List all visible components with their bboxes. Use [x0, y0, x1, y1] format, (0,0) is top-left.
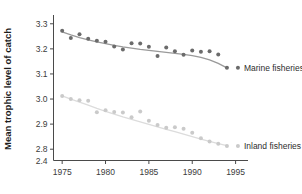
legend-swatch — [236, 144, 240, 148]
data-point — [138, 110, 142, 114]
data-point — [86, 37, 90, 41]
x-tick-label-1995: 1995 — [226, 167, 245, 177]
data-point — [130, 115, 134, 119]
data-point — [225, 66, 229, 70]
data-point — [156, 123, 160, 127]
data-point — [121, 48, 125, 52]
data-point — [95, 110, 99, 114]
trendline — [62, 32, 227, 68]
data-point — [216, 142, 220, 146]
x-tick-label-1985: 1985 — [139, 167, 158, 177]
data-point — [78, 32, 82, 36]
data-point — [190, 131, 194, 135]
legend-swatch — [236, 66, 240, 70]
x-tick-label-1990: 1990 — [183, 167, 202, 177]
y-tick-label-3.3: 3.3 — [36, 19, 48, 29]
data-point — [164, 126, 168, 130]
y-tick-label-2.8: 2.8 — [36, 144, 48, 154]
y-origin-label: 2.4 — [36, 156, 48, 166]
y-tick-label-3.2: 3.2 — [36, 44, 48, 54]
data-point — [60, 29, 64, 33]
data-point — [69, 97, 73, 101]
data-point — [78, 98, 82, 102]
data-point — [225, 144, 229, 148]
y-tick-label-3.1: 3.1 — [36, 69, 48, 79]
data-point — [112, 45, 116, 49]
data-point — [208, 139, 212, 143]
data-point — [199, 50, 203, 54]
series-inland-fisheries: Inland fisheries — [60, 94, 301, 151]
y-axis-title: Mean trophic level of catch — [2, 28, 13, 150]
data-point — [95, 39, 99, 43]
data-point — [190, 49, 194, 53]
data-point — [156, 54, 160, 58]
y-tick-label-2.9: 2.9 — [36, 119, 48, 129]
data-point — [182, 127, 186, 131]
data-point — [60, 94, 64, 98]
data-point — [138, 42, 142, 46]
data-point — [199, 136, 203, 140]
data-point — [112, 110, 116, 114]
data-point — [130, 41, 134, 45]
data-point — [69, 36, 73, 40]
data-point — [216, 52, 220, 56]
data-point — [104, 40, 108, 44]
data-point — [164, 46, 168, 50]
data-point — [182, 53, 186, 57]
y-tick-label-3.0: 3.0 — [36, 94, 48, 104]
data-point — [208, 49, 212, 53]
data-point — [147, 45, 151, 49]
data-point — [173, 125, 177, 129]
legend-label: Inland fisheries — [244, 141, 301, 151]
legend-label: Marine fisheries — [244, 63, 302, 73]
chart-figure: 3.33.23.13.02.92.82.41975198019851990199… — [0, 0, 302, 194]
x-tick-label-1975: 1975 — [53, 167, 72, 177]
x-tick-label-1980: 1980 — [96, 167, 115, 177]
series-marine-fisheries: Marine fisheries — [60, 29, 302, 73]
data-point — [147, 119, 151, 123]
data-point — [173, 49, 177, 53]
data-point — [86, 99, 90, 103]
data-point — [121, 111, 125, 115]
data-point — [104, 108, 108, 112]
